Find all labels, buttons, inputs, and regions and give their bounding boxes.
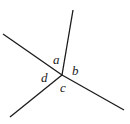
ray-left-down bbox=[10, 75, 62, 117]
angle-label-b: b bbox=[72, 63, 79, 78]
angle-label-d: d bbox=[41, 70, 48, 85]
angle-label-c: c bbox=[60, 80, 66, 95]
ray-right-down bbox=[62, 75, 124, 110]
angle-diagram: a b c d bbox=[0, 0, 130, 124]
angle-label-a: a bbox=[53, 52, 60, 67]
